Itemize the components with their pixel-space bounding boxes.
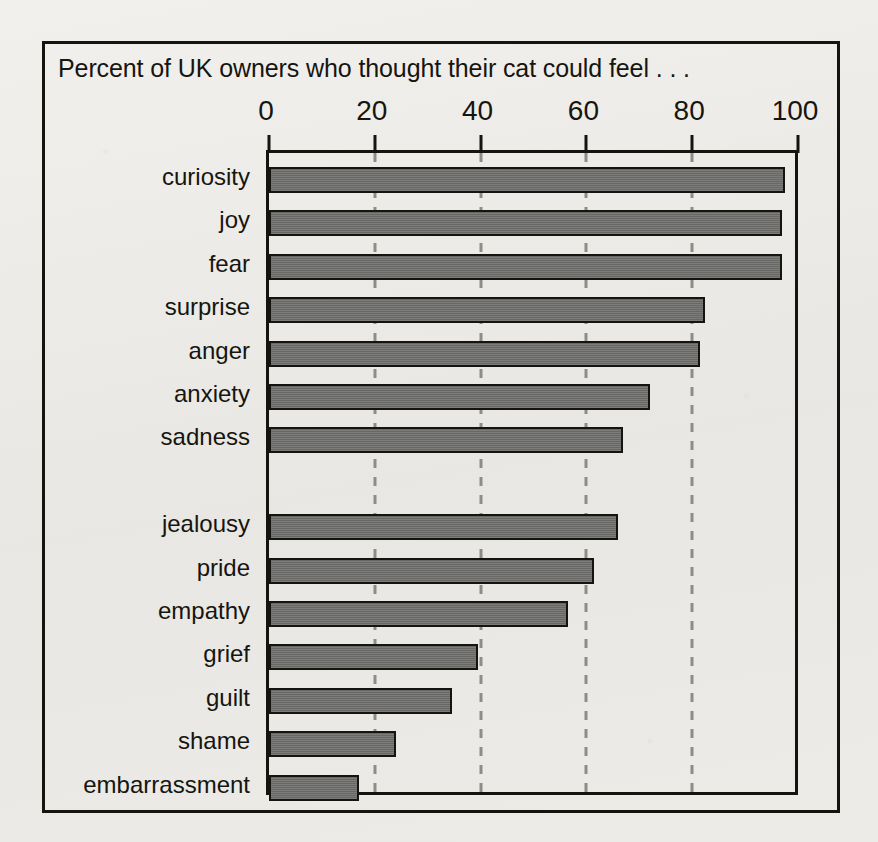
bar-row [269,558,801,584]
x-tick-label-40: 40 [462,95,493,127]
bar-row [269,427,801,453]
bar-joy [269,210,782,236]
category-label-jealousy: jealousy [162,511,250,537]
x-axis-tick-0 [268,135,271,153]
category-label-sadness: sadness [161,424,250,450]
bar-row [269,210,801,236]
bar-row [269,297,801,323]
x-axis-tick-label-row: 020406080100 [0,95,878,131]
category-label-shame: shame [178,728,250,754]
bar-row [269,254,801,280]
bar-guilt [269,688,452,714]
x-axis-tick-40 [479,135,482,153]
bar-anger [269,341,700,367]
x-axis-tick-80 [691,135,694,153]
category-label-curiosity: curiosity [162,164,250,190]
bar-row [269,514,801,540]
bar-embarrassment [269,775,359,801]
category-label-anger: anger [189,338,250,364]
chart-title: Percent of UK owners who thought their c… [58,54,690,83]
category-label-surprise: surprise [165,294,250,320]
bar-grief [269,644,478,670]
bar-anxiety [269,384,650,410]
x-tick-label-100: 100 [772,95,819,127]
x-axis-tick-20 [373,135,376,153]
bar-jealousy [269,514,618,540]
category-label-empathy: empathy [158,598,250,624]
x-axis-tick-60 [585,135,588,153]
x-tick-label-60: 60 [568,95,599,127]
x-tick-label-20: 20 [356,95,387,127]
category-label-embarrassment: embarrassment [83,772,250,798]
x-axis-tick-100 [797,135,800,153]
x-tick-label-0: 0 [258,95,274,127]
bar-sadness [269,427,623,453]
bar-row [269,167,801,193]
x-tick-label-80: 80 [674,95,705,127]
category-label-guilt: guilt [206,685,250,711]
category-label-joy: joy [219,207,250,233]
category-label-anxiety: anxiety [174,381,250,407]
bar-empathy [269,601,568,627]
bar-surprise [269,297,705,323]
bar-row [269,644,801,670]
bar-fear [269,254,782,280]
bar-row [269,731,801,757]
category-label-grief: grief [203,641,250,667]
bar-curiosity [269,167,785,193]
bar-row [269,688,801,714]
category-label-fear: fear [209,251,250,277]
bar-row [269,384,801,410]
plot-area [266,150,798,795]
bar-row [269,775,801,801]
bar-pride [269,558,594,584]
bar-row [269,341,801,367]
category-label-pride: pride [197,555,250,581]
bar-row [269,601,801,627]
bar-shame [269,731,396,757]
